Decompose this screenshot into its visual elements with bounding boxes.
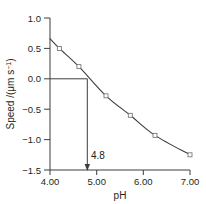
x-axis-tick-labels: 4.00 5.00 6.00 7.00 <box>41 176 200 187</box>
isoelectric-point-guides <box>50 79 90 171</box>
y-tick-label-2: 0.0 <box>28 73 41 84</box>
y-axis-title: Speed /(μm s−1) <box>5 58 17 129</box>
data-curve <box>50 39 190 155</box>
data-point-marker <box>128 113 132 117</box>
data-point-marker <box>188 153 192 157</box>
speed-curve-line <box>50 39 190 155</box>
y-axis-tick-labels: 1.0 0.5 0.0 −0.5 −1.0 −1.5 <box>22 13 41 176</box>
x-axis-title: pH <box>114 190 127 201</box>
chart-figure: 1.0 0.5 0.0 −0.5 −1.0 −1.5 4.00 5.00 6.0… <box>0 0 206 204</box>
axis-lines <box>50 18 190 170</box>
data-point-marker <box>57 46 61 50</box>
y-tick-label-5: −1.5 <box>22 165 41 176</box>
x-tick-label-1: 5.00 <box>87 176 106 187</box>
annotation-label-4.8: 4.8 <box>91 150 105 161</box>
data-point-markers <box>57 46 192 156</box>
y-axis-title-main: Speed /(μm s <box>5 70 16 130</box>
data-point-marker <box>104 94 108 98</box>
chart-canvas: 1.0 0.5 0.0 −0.5 −1.0 −1.5 4.00 5.00 6.0… <box>0 0 206 204</box>
y-axis-title-close: ) <box>5 58 16 61</box>
y-tick-label-1: 0.5 <box>28 43 41 54</box>
y-tick-label-4: −1.0 <box>22 134 41 145</box>
data-point-marker <box>77 65 81 69</box>
data-point-marker <box>153 133 157 137</box>
x-tick-label-3: 7.00 <box>181 176 200 187</box>
y-axis-ticks <box>44 18 50 170</box>
y-axis-title-group: Speed /(μm s−1) <box>5 58 17 129</box>
x-axis-ticks <box>50 170 190 175</box>
x-tick-label-0: 4.00 <box>41 176 60 187</box>
y-tick-label-3: −0.5 <box>22 104 41 115</box>
y-tick-label-0: 1.0 <box>28 13 41 24</box>
x-tick-label-2: 6.00 <box>134 176 153 187</box>
y-axis-title-exponent: −1 <box>5 62 12 70</box>
